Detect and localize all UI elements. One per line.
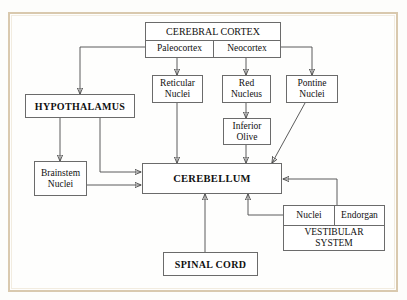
reticular-nuclei-line1: Reticular [158,78,197,89]
brainstem-nuclei-line2: Nuclei [46,179,75,190]
node-paleocortex[interactable]: Paleocortex [146,41,213,57]
node-reticular-nuclei[interactable]: Reticular Nuclei [152,75,203,103]
hypothalamus-label: HYPOTHALAMUS [33,101,127,112]
node-vestibular-system[interactable]: Nuclei Endorgan VESTIBULAR SYSTEM [283,205,385,251]
node-red-nucleus[interactable]: Red Nucleus [222,75,271,103]
node-pontine-nuclei[interactable]: Pontine Nuclei [286,75,338,103]
node-hypothalamus[interactable]: HYPOTHALAMUS [25,94,135,118]
red-nucleus-line1: Red [237,78,256,89]
spinal-cord-label: SPINAL CORD [173,259,248,270]
brainstem-nuclei-line1: Brainstem [39,168,82,179]
pontine-nuclei-line1: Pontine [295,78,328,89]
red-nucleus-line2: Nucleus [229,89,264,100]
node-vestibular-endorgan[interactable]: Endorgan [334,206,384,225]
wire-neocortex-to-pontine [280,47,312,75]
cerebellum-label: CEREBELLUM [171,173,253,184]
pontine-nuclei-line2: Nuclei [297,89,326,100]
inferior-olive-line1: Inferior [230,121,263,132]
node-cerebral-cortex[interactable]: CEREBRAL CORTEX Paleocortex Neocortex [145,22,281,58]
node-cerebellum[interactable]: CEREBELLUM [142,163,282,194]
wire-pontine-to-cerebellum [272,103,305,163]
diagram-canvas: CEREBRAL CORTEX Paleocortex Neocortex Re… [0,0,407,300]
node-brainstem-nuclei[interactable]: Brainstem Nuclei [34,161,87,196]
vestibular-system-line1: VESTIBULAR [302,227,365,238]
wire-paleocortex-to-hypothalamus [80,47,145,94]
vestibular-system-line2: SYSTEM [313,238,354,249]
wire-hypothalamus-to-cerebellum [100,118,141,172]
inferior-olive-line2: Olive [234,132,259,143]
wire-vestibular-to-cerebellum-right [283,179,337,205]
wire-vestibular-nuclei-to-cerebellum [248,194,283,215]
node-vestibular-nuclei[interactable]: Nuclei [284,206,334,225]
cerebral-cortex-title: CEREBRAL CORTEX [146,23,280,40]
node-neocortex[interactable]: Neocortex [213,41,280,57]
node-spinal-cord[interactable]: SPINAL CORD [163,252,258,276]
node-inferior-olive[interactable]: Inferior Olive [223,118,271,145]
reticular-nuclei-line2: Nuclei [163,89,192,100]
